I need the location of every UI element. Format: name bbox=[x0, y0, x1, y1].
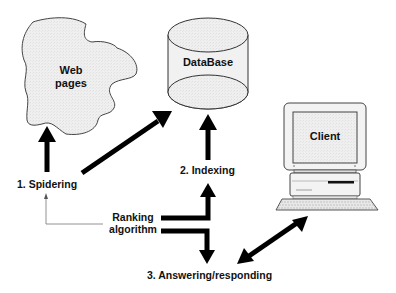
arrow-answering-client-bidirectional bbox=[237, 216, 308, 264]
web-pages-label: Web pages bbox=[55, 64, 87, 89]
ranking-algorithm-label: Ranking algorithm bbox=[109, 211, 157, 235]
arrow-ranking-to-spidering bbox=[44, 193, 103, 224]
arrow-spidering-to-webpages bbox=[38, 126, 56, 172]
client-label: Client bbox=[310, 130, 341, 143]
step-indexing-label: 2. Indexing bbox=[180, 164, 235, 176]
step-spidering-label: 1. Spidering bbox=[17, 178, 77, 190]
diagram-canvas bbox=[0, 0, 396, 293]
arrow-ranking-to-answering bbox=[161, 231, 215, 264]
search-engine-diagram: Web pages DataBase Client 1. Spidering 2… bbox=[0, 0, 396, 293]
step-answering-label: 3. Answering/responding bbox=[147, 269, 272, 281]
arrow-indexing-to-database bbox=[199, 114, 217, 160]
web-pages-label-line1: Web bbox=[55, 64, 87, 77]
client-computer-icon bbox=[276, 103, 378, 210]
ranking-label-line1: Ranking bbox=[109, 211, 157, 223]
ranking-label-line2: algorithm bbox=[109, 223, 157, 235]
arrow-ranking-to-indexing bbox=[161, 183, 216, 218]
web-pages-label-line2: pages bbox=[55, 77, 87, 90]
database-label: DataBase bbox=[183, 56, 233, 69]
